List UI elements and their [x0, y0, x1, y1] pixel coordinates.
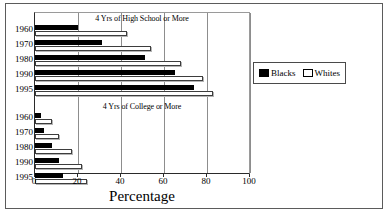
- year-label: 1960: [7, 112, 33, 122]
- year-label: 1990: [7, 157, 33, 167]
- bar-whites: [35, 91, 213, 96]
- bar-blacks: [35, 70, 175, 75]
- x-axis: 020406080100: [34, 174, 250, 186]
- legend-entry-whites: Whites: [303, 68, 341, 78]
- x-tick-label: 20: [62, 176, 92, 187]
- bar-blacks: [35, 158, 59, 163]
- bar-blacks: [35, 85, 194, 90]
- legend-swatch-blacks-icon: [259, 69, 269, 77]
- x-tick-label: 60: [148, 176, 178, 187]
- plot-area: 4 Yrs of High School or More196019701980…: [34, 12, 250, 174]
- year-label: 1995: [7, 84, 33, 94]
- legend-swatch-whites-icon: [303, 69, 313, 77]
- bar-row: 1990: [35, 69, 249, 84]
- bar-row: 1980: [35, 54, 249, 69]
- x-tick-label: 100: [234, 176, 264, 187]
- bar-whites: [35, 46, 151, 51]
- bar-whites: [35, 31, 127, 36]
- gridline: [250, 13, 251, 173]
- bar-blacks: [35, 40, 102, 45]
- bar-row: 1970: [35, 127, 249, 142]
- bar-row: 1960: [35, 24, 249, 39]
- x-tick-label: 40: [105, 176, 135, 187]
- bar-whites: [35, 134, 59, 139]
- bar-blacks: [35, 128, 44, 133]
- bar-blacks: [35, 143, 52, 148]
- bar-whites: [35, 76, 203, 81]
- bar-blacks: [35, 25, 78, 30]
- bar-whites: [35, 61, 181, 66]
- year-label: 1970: [7, 127, 33, 137]
- year-label: 1960: [7, 24, 33, 34]
- bar-whites: [35, 164, 82, 169]
- year-label: 1990: [7, 69, 33, 79]
- legend-entry-blacks: Blacks: [259, 68, 296, 78]
- legend-label-whites: Whites: [315, 68, 341, 78]
- year-label: 1980: [7, 54, 33, 64]
- bar-blacks: [35, 55, 145, 60]
- x-axis-title: Percentage: [34, 187, 250, 205]
- year-label: 1980: [7, 142, 33, 152]
- bar-row: 1995: [35, 84, 249, 99]
- group-title-college: 4 Yrs of College or More: [35, 101, 249, 112]
- year-label: 1970: [7, 39, 33, 49]
- x-tick-label: 0: [19, 176, 49, 187]
- group-title-highschool: 4 Yrs of High School or More: [35, 13, 249, 24]
- bar-whites: [35, 149, 72, 154]
- legend-label-blacks: Blacks: [271, 68, 296, 78]
- figure-frame: 4 Yrs of High School or More196019701980…: [5, 3, 383, 209]
- chart-legend: Blacks Whites: [253, 62, 346, 84]
- bar-row: 1960: [35, 112, 249, 127]
- bar-blacks: [35, 113, 41, 118]
- bar-row: 1990: [35, 157, 249, 172]
- bar-row: 1980: [35, 142, 249, 157]
- bar-whites: [35, 119, 52, 124]
- x-tick-label: 80: [191, 176, 221, 187]
- bar-row: 1970: [35, 39, 249, 54]
